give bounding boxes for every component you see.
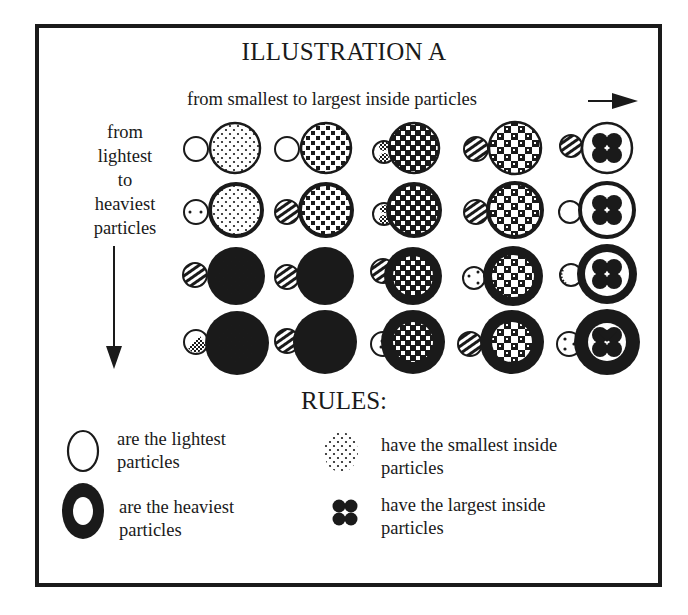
- legend-text-line: particles: [119, 519, 234, 542]
- particle-pair: [184, 184, 262, 236]
- particle-pair: [458, 310, 544, 374]
- particle-row-4: [184, 309, 640, 375]
- legend-lightest: are the lightest particles: [117, 428, 226, 474]
- particle-pair: [464, 183, 542, 237]
- particle-pair: [275, 310, 357, 374]
- thin-ring-icon: [68, 431, 98, 471]
- particle-pair: [371, 310, 445, 374]
- legend-text-line: particles: [117, 451, 226, 474]
- particle-pair: [275, 123, 351, 173]
- particle-pair: [373, 123, 439, 173]
- particle-pair: [373, 184, 440, 236]
- legend-text-line: have the largest inside: [381, 494, 546, 517]
- legend-text-line: are the lightest: [117, 428, 226, 451]
- legend-text-line: are the heaviest: [119, 496, 234, 519]
- particle-pair: [463, 246, 543, 306]
- legend-heaviest: are the heaviest particles: [119, 496, 234, 542]
- legend-text-line: particles: [381, 457, 557, 480]
- particle-pair: [560, 244, 637, 304]
- down-arrow-icon: [106, 246, 122, 369]
- particle-pair: [560, 123, 632, 173]
- particle-row-3: [183, 244, 637, 306]
- particle-diagram: [0, 0, 688, 615]
- legend-smallest-inside: have the smallest inside particles: [381, 434, 557, 480]
- four-dots-icon: [333, 500, 358, 526]
- legend-largest-inside: have the largest inside particles: [381, 494, 546, 540]
- particle-pair: [371, 247, 442, 305]
- particle-pair: [184, 123, 260, 173]
- particle-pair: [275, 247, 354, 305]
- fine-dots-icon: [324, 432, 358, 472]
- particle-row-1: [184, 122, 632, 174]
- rules-title: RULES:: [0, 387, 688, 415]
- right-arrow-icon: [588, 93, 638, 109]
- legend-text-line: have the smallest inside: [381, 434, 557, 457]
- particle-pair: [275, 184, 352, 236]
- particle-row-2: [184, 183, 634, 237]
- particle-pair: [464, 122, 541, 174]
- thick-ring-icon: [62, 483, 104, 539]
- legend-text-line: particles: [381, 517, 546, 540]
- particle-pair: [183, 247, 265, 305]
- particle-pair: [557, 309, 640, 375]
- particle-pair: [559, 183, 634, 237]
- particle-pair: [184, 311, 269, 375]
